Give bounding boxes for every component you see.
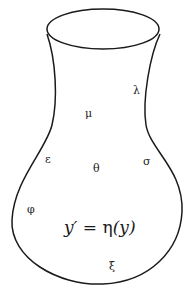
vase-rim-ellipse <box>47 9 159 49</box>
label-lambda: λ <box>133 84 140 97</box>
vase-diagram: λ μ ε θ σ φ ξ y′ = η(y) <box>0 0 193 298</box>
label-phi: φ <box>27 203 35 216</box>
label-theta: θ <box>93 162 100 175</box>
label-xi: ξ <box>109 260 115 273</box>
label-mu: μ <box>85 107 92 120</box>
equation-argument: (y) <box>113 217 136 237</box>
vase-body-outline <box>12 34 182 284</box>
label-sigma: σ <box>143 155 151 168</box>
equation-lhs: y′ <box>63 217 78 237</box>
label-epsilon: ε <box>45 153 51 166</box>
equation-label: y′ = η(y) <box>63 217 136 237</box>
equation-function: η <box>103 217 113 237</box>
equation-equals: = <box>77 217 102 237</box>
diagram-svg: λ μ ε θ σ φ ξ y′ = η(y) <box>0 0 193 298</box>
